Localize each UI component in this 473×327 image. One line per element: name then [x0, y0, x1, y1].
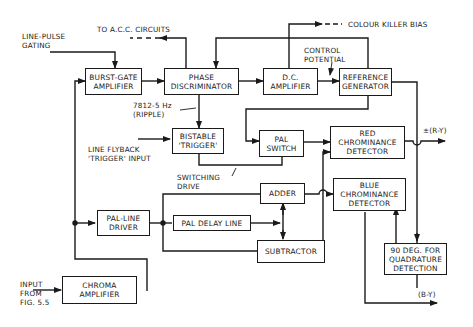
- adder-block: ADDER: [260, 183, 305, 204]
- line-pulse-gating-label: LINE-PULSE GATING: [22, 32, 65, 50]
- phase-discriminator-block: PHASE DISCRIMINATOR: [164, 68, 239, 95]
- switching-drive-label: SWITCHING DRIVE: [177, 173, 220, 191]
- reference-generator-block: REFERENCE GENERATOR: [339, 68, 392, 96]
- blue-chrominance-detector-block: BLUE CHROMINANCE DETECTOR: [333, 178, 406, 211]
- b-y-output-label: (B-Y): [418, 290, 436, 299]
- acc-circuits-label: TO A.C.C. CIRCUITS: [97, 25, 170, 34]
- colour-killer-bias-label: COLOUR KILLER BIAS: [348, 20, 427, 29]
- pal-delay-line-block: PAL DELAY LINE: [173, 215, 251, 231]
- pal-line-driver-block: PAL-LINE DRIVER: [97, 210, 150, 236]
- quadrature-detection-block: 90 DEG. FOR QUADRATURE DETECTION: [384, 243, 447, 275]
- dc-amplifier-block: D.C. AMPLIFIER: [263, 68, 318, 95]
- burst-gate-amplifier-block: BURST-GATE AMPLIFIER: [85, 68, 142, 95]
- pal-switch-block: PAL SWITCH: [259, 130, 304, 157]
- bistable-trigger-block: BISTABLE 'TRIGGER': [172, 128, 224, 154]
- input-label: INPUT FROM FIG. 5.5: [20, 280, 49, 307]
- chroma-amplifier-block: CHROMA AMPLIFIER: [62, 276, 137, 304]
- subtractor-block: SUBTRACTOR: [257, 240, 325, 263]
- line-flyback-label: LINE FLYBACK 'TRIGGER' INPUT: [88, 145, 151, 163]
- ripple-label: 7812-5 Hz (RIPPLE): [133, 101, 172, 119]
- control-potential-label: CONTROL POTENTIAL: [304, 46, 346, 64]
- r-y-output-label: ±(R-Y): [423, 126, 447, 135]
- red-chrominance-detector-block: RED CHROMINANCE DETECTOR: [330, 126, 405, 159]
